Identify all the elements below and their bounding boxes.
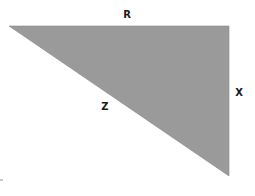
side-label-r: R (123, 10, 131, 20)
right-triangle-shape (9, 26, 229, 176)
side-label-x: X (235, 88, 243, 98)
side-label-z: Z (101, 102, 108, 112)
triangle-diagram (0, 0, 255, 196)
scan-artifact (0, 179, 3, 181)
